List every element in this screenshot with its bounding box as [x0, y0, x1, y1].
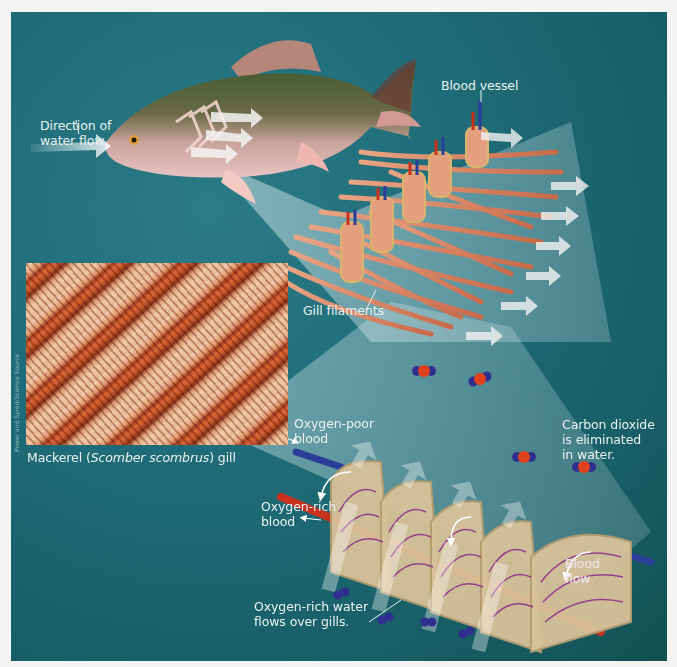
label-line: Oxygen-rich — [261, 499, 336, 514]
caption-prefix: Mackerel ( — [27, 450, 91, 465]
label-line: water flow — [40, 133, 111, 148]
fish-illustration — [105, 40, 421, 204]
mackerel-gill-photo — [26, 263, 288, 445]
label-line: is eliminated — [562, 432, 655, 447]
label-direction-of-water-flow: Direction of water flow — [40, 118, 111, 148]
label-gill-filaments: Gill filaments — [303, 303, 384, 318]
label-line: flows over gills. — [254, 614, 368, 629]
label-line: Blood — [565, 556, 600, 571]
label-line: flow — [565, 571, 600, 586]
label-blood-vessel: Blood vessel — [441, 78, 518, 93]
label-oxygen-rich-blood: Oxygen-rich blood — [261, 499, 336, 529]
caption-suffix: ) gill — [209, 450, 236, 465]
diagram-panel: Power and Syred/Science Source Direction… — [11, 12, 667, 661]
label-photo-caption: Mackerel (Scomber scombrus) gill — [27, 450, 236, 465]
label-line: Direction of — [40, 118, 111, 133]
label-line: Oxygen-poor — [294, 416, 374, 431]
label-line: blood — [294, 431, 374, 446]
label-line: blood — [261, 514, 336, 529]
label-oxygen-poor-blood: Oxygen-poor blood — [294, 416, 374, 446]
label-line: in water. — [562, 447, 655, 462]
label-line: Oxygen-rich water — [254, 599, 368, 614]
caption-species: Scomber scombrus — [91, 450, 210, 465]
label-blood-flow: Blood flow — [565, 556, 600, 586]
photo-credit: Power and Syred/Science Source — [13, 302, 25, 452]
label-carbon-dioxide: Carbon dioxide is eliminated in water. — [562, 417, 655, 462]
label-oxygen-rich-water: Oxygen-rich water flows over gills. — [254, 599, 368, 629]
label-line: Carbon dioxide — [562, 417, 655, 432]
photo-texture — [26, 263, 288, 445]
